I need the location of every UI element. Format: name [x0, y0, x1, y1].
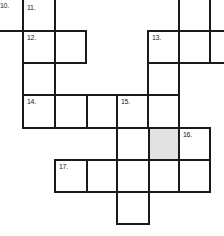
crossword-cell[interactable]: 11. — [22, 0, 56, 32]
clue-number: 10. — [0, 2, 9, 9]
clue-number: 16. — [183, 131, 192, 138]
crossword-cell[interactable]: 17. — [54, 159, 88, 193]
clue-number: 13. — [152, 34, 161, 41]
crossword-cell[interactable] — [54, 30, 87, 64]
crossword-cell[interactable] — [148, 159, 180, 193]
crossword-cell[interactable]: 15. — [116, 94, 149, 129]
clue-number: 15. — [121, 98, 130, 105]
crossword-cell[interactable]: 13. — [147, 30, 180, 64]
crossword-cell[interactable] — [209, 0, 224, 32]
crossword-cell[interactable] — [86, 159, 118, 193]
clue-number: 17. — [59, 163, 68, 170]
crossword-cell[interactable]: 10. — [0, 0, 24, 32]
crossword-cell[interactable] — [147, 94, 180, 129]
crossword-cell[interactable]: 14. — [22, 94, 56, 129]
crossword-cell[interactable] — [54, 94, 88, 129]
crossword-cell[interactable] — [178, 0, 211, 32]
clue-number: 11. — [27, 4, 35, 11]
crossword-cell[interactable]: 16. — [178, 127, 211, 161]
crossword-cell[interactable] — [147, 62, 180, 96]
crossword-cell[interactable] — [116, 127, 150, 161]
crossword-cell[interactable] — [86, 94, 118, 129]
crossword-cell[interactable] — [209, 30, 224, 64]
crossword-cell[interactable] — [178, 159, 211, 193]
crossword-cell[interactable] — [116, 191, 150, 225]
crossword-cell[interactable] — [22, 62, 56, 96]
shaded-cell — [148, 127, 180, 161]
clue-number: 14. — [27, 98, 36, 105]
clue-number: 12. — [27, 34, 36, 41]
crossword-cell[interactable] — [178, 30, 211, 64]
crossword-cell[interactable]: 12. — [22, 30, 56, 64]
crossword-cell[interactable] — [116, 159, 150, 193]
